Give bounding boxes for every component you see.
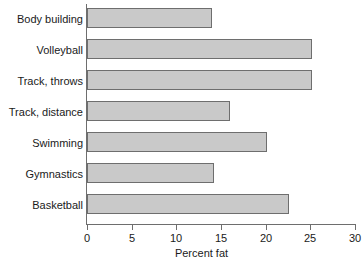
category-label: Body building bbox=[17, 14, 83, 25]
bar-chart: Body building Volleyball Track, throws T… bbox=[0, 0, 363, 264]
bar bbox=[87, 194, 289, 214]
x-axis-tick-label: 15 bbox=[215, 232, 227, 244]
x-axis-tick bbox=[355, 225, 356, 230]
bar bbox=[87, 163, 214, 183]
category-label: Gymnastics bbox=[26, 169, 83, 180]
bar bbox=[87, 101, 230, 121]
x-axis-tick bbox=[221, 225, 222, 230]
x-axis-title: Percent fat bbox=[0, 247, 363, 259]
plot-area bbox=[87, 0, 355, 224]
x-axis-tick bbox=[266, 225, 267, 230]
category-label: Track, distance bbox=[9, 107, 83, 118]
category-label: Basketball bbox=[32, 200, 83, 211]
category-label: Track, throws bbox=[17, 76, 83, 87]
bar bbox=[87, 8, 212, 28]
x-axis-tick-label: 5 bbox=[129, 232, 135, 244]
bar bbox=[87, 132, 267, 152]
x-axis-tick-label: 25 bbox=[304, 232, 316, 244]
x-axis-tick-label: 20 bbox=[260, 232, 272, 244]
x-axis-tick-label: 0 bbox=[84, 232, 90, 244]
x-axis-title-text: Percent fat bbox=[175, 247, 228, 259]
category-label: Swimming bbox=[32, 138, 83, 149]
x-axis-tick bbox=[310, 225, 311, 230]
bar bbox=[87, 70, 312, 90]
bar bbox=[87, 39, 312, 59]
x-axis-tick bbox=[132, 225, 133, 230]
category-label: Volleyball bbox=[37, 45, 83, 56]
x-axis-tick bbox=[87, 225, 88, 230]
x-axis-tick bbox=[176, 225, 177, 230]
x-axis-tick-label: 30 bbox=[349, 232, 361, 244]
x-axis-tick-label: 10 bbox=[170, 232, 182, 244]
y-axis-line bbox=[86, 4, 87, 225]
